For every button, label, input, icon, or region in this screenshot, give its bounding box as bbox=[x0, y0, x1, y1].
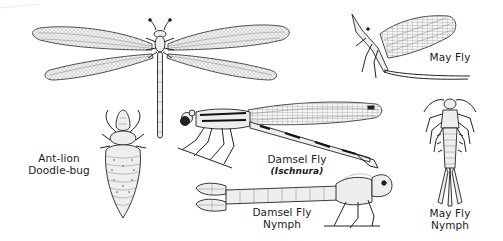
label-mayfly-nymph-line2: Nymph bbox=[431, 219, 469, 231]
label-mayfly-nymph: May Fly Nymph bbox=[422, 207, 478, 231]
mayfly-adult-drawing bbox=[352, 14, 470, 79]
label-mayfly-name: May Fly bbox=[430, 51, 471, 63]
label-damselfly-nymph-line1: Damsel Fly bbox=[252, 206, 311, 218]
mayfly-nymph-drawing bbox=[424, 99, 476, 206]
label-antlion-larva: Ant-lion Doodle-bug bbox=[24, 152, 94, 176]
label-antlion-line1: Ant-lion bbox=[38, 152, 79, 164]
label-damselfly-genus: (Ischnura) bbox=[252, 165, 342, 177]
label-damselfly-nymph: Damsel Fly Nymph bbox=[247, 206, 317, 230]
label-antlion-line2: Doodle-bug bbox=[28, 164, 90, 176]
label-damselfly-nymph-line2: Nymph bbox=[263, 218, 301, 230]
label-damselfly-adult: Damsel Fly (Ischnura) bbox=[252, 153, 342, 177]
label-mayfly-nymph-line1: May Fly bbox=[430, 207, 471, 219]
label-mayfly-adult: May Fly bbox=[420, 51, 480, 63]
insect-line-drawings bbox=[0, 0, 503, 241]
antlion-larva-drawing bbox=[100, 110, 146, 218]
insect-illustration-plate: Ant-lion Doodle-bug Damsel Fly (Ischnura… bbox=[0, 0, 503, 241]
label-damselfly-name: Damsel Fly bbox=[267, 153, 326, 165]
page-edge-mark bbox=[0, 4, 40, 8]
